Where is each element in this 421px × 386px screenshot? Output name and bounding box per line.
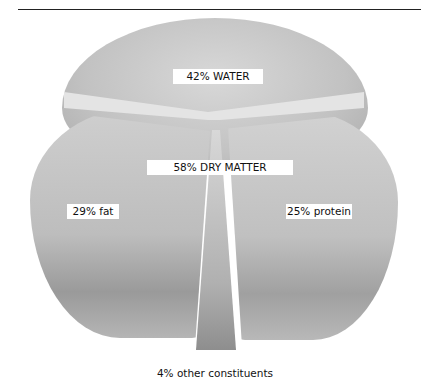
label-dry-matter: 58% DRY MATTER bbox=[147, 160, 293, 175]
cheese-fat-wedge bbox=[30, 108, 210, 338]
cheese-composition-figure: 42% WATER 58% DRY MATTER 29% fat 25% pro… bbox=[0, 0, 421, 386]
label-fat: 29% fat bbox=[67, 204, 119, 219]
label-water: 42% WATER bbox=[173, 69, 263, 84]
cheese-protein-wedge bbox=[228, 110, 398, 340]
label-other-constituents: 4% other constituents bbox=[140, 366, 290, 381]
label-protein: 25% protein bbox=[286, 204, 352, 219]
